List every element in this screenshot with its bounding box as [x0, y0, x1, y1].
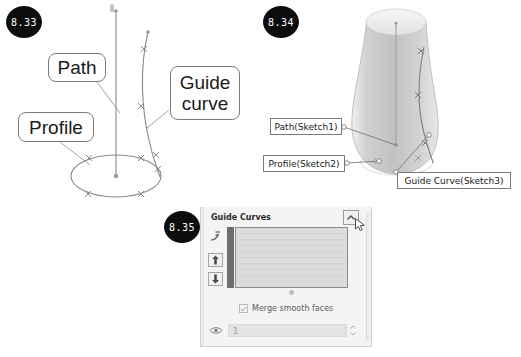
profile-ellipse-833	[71, 155, 161, 197]
tangency-value-field[interactable]: 1	[228, 324, 347, 337]
callout-guide-curve: Guide curve	[170, 66, 240, 120]
guide-curve-ticks-834	[415, 48, 428, 146]
leader-dots-834	[342, 125, 432, 175]
leader-lines-834	[344, 127, 429, 172]
profile-ticks-834	[374, 155, 421, 164]
eye-icon[interactable]	[208, 325, 223, 336]
tangency-value: 1	[233, 327, 238, 336]
callout-path-sketch1: Path(Sketch1)	[270, 118, 342, 135]
merge-smooth-faces-label: Merge smooth faces	[252, 304, 333, 313]
control-points-833	[114, 9, 150, 178]
leader-guide-833	[147, 110, 169, 128]
arrow-down-icon[interactable]	[208, 272, 223, 286]
guide-curves-listbox[interactable]	[235, 227, 348, 288]
guide-curves-panel: Guide Curves	[200, 207, 372, 347]
figure-badge-833: 8.33	[6, 6, 42, 38]
leader-path-834	[344, 127, 396, 145]
callout-profile: Profile	[18, 112, 94, 142]
guide-curve-834	[419, 47, 433, 163]
swept-solid-834	[352, 9, 438, 175]
callout-guide-curve-line1: Guide	[180, 72, 231, 93]
leader-guide-834	[396, 135, 429, 172]
panel-scrollbar[interactable]	[366, 213, 371, 341]
panel-title: Guide Curves	[211, 213, 271, 222]
selection-color-bar	[227, 227, 234, 288]
arrow-up-icon[interactable]	[208, 253, 223, 267]
chevron-up-icon[interactable]	[343, 210, 359, 225]
callout-guide-curve-line2: curve	[182, 93, 228, 114]
leader-path-833	[94, 78, 120, 113]
merge-smooth-faces-checkbox[interactable]	[239, 304, 248, 313]
merge-smooth-faces-row[interactable]: Merge smooth faces	[239, 304, 333, 313]
callout-path: Path	[48, 53, 106, 82]
listbox-resize-handle[interactable]	[289, 290, 294, 295]
panel-left-edge	[201, 207, 204, 346]
leader-profile-833	[60, 142, 90, 165]
spinner-arrows-icon[interactable]	[349, 323, 357, 338]
leader-profile-834	[347, 161, 379, 163]
guide-curve-833	[142, 32, 160, 177]
guide-curve-icon[interactable]	[208, 230, 223, 244]
callout-profile-sketch2: Profile(Sketch2)	[263, 155, 345, 172]
stray-artifact	[110, 4, 114, 12]
callout-guide-curve-sketch3: Guide Curve(Sketch3)	[397, 172, 511, 189]
figure-badge-835: 8.35	[164, 211, 200, 243]
figure-badge-834: 8.34	[263, 6, 299, 38]
figure-sheet: 8.33 Path Profile Guide curve	[0, 0, 521, 357]
